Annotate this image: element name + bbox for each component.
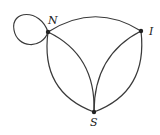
node-S	[92, 110, 96, 114]
node-I	[139, 29, 143, 33]
graph-diagram: N I S	[0, 0, 160, 135]
node-label-S: S	[90, 116, 98, 129]
node-N	[46, 30, 50, 34]
node-label-I: I	[148, 25, 154, 38]
edge-N-N-loop	[14, 15, 48, 45]
node-label-N: N	[47, 14, 58, 27]
edge-N-S-outer	[47, 32, 94, 112]
edge-N-I	[48, 17, 141, 32]
